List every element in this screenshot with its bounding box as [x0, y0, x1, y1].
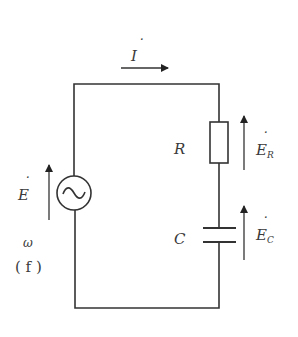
resistor-label: R: [173, 140, 185, 158]
circuit-wires: [74, 84, 219, 308]
source-voltage-label: E: [17, 186, 29, 204]
wire-left-top: [74, 84, 219, 176]
frequency-label: ( f ): [15, 258, 42, 276]
resistor-voltage-subscript: R: [266, 150, 274, 160]
current-label: I: [130, 47, 138, 65]
resistor-symbol: [210, 122, 228, 163]
angular-frequency-label: ω: [23, 236, 33, 250]
rc-circuit-diagram: ˙ I ˙ E ω ( f ) R C ˙ E R ˙ E C: [0, 0, 298, 337]
ac-source-icon: [57, 176, 91, 210]
current-label-dot: ˙: [137, 37, 144, 53]
capacitor-voltage-subscript: C: [267, 235, 274, 245]
resistor-voltage-label: E: [255, 141, 267, 159]
capacitor-symbol: [203, 228, 236, 242]
wire-bottom: [75, 210, 219, 308]
capacitor-label: C: [174, 230, 186, 248]
capacitor-voltage-label: E: [255, 226, 267, 244]
